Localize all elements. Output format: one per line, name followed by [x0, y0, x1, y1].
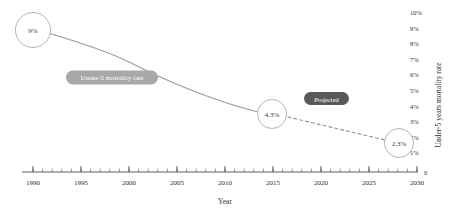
data-point-1990[interactable]: 9%	[16, 13, 51, 48]
data-point-2030[interactable]: 2.3%	[385, 129, 414, 158]
x-tick-label-2015: 2015	[266, 179, 281, 187]
data-point-label: 4.3%	[265, 111, 280, 119]
chart-plot-area: 1990 1995 2000 2005 2010 2015 2020 2025 …	[0, 0, 459, 224]
y-tick-label-9: 9%	[410, 25, 419, 32]
annotation-pill-label: Under-5 mortality rate	[81, 74, 144, 82]
x-tick-label-1990: 1990	[26, 179, 41, 187]
annotation-pill-projected[interactable]: Projected	[304, 92, 349, 105]
x-tick-label-2025: 2025	[362, 179, 377, 187]
x-tick-label-2020: 2020	[314, 179, 329, 187]
y-axis-title: Under-5 years mortality rate	[434, 62, 443, 148]
chart-container: 1990 1995 2000 2005 2010 2015 2020 2025 …	[0, 0, 459, 224]
y-tick-label-7: 7%	[410, 56, 419, 63]
y-tick-label-8: 8%	[410, 40, 419, 47]
x-tick-label-2010: 2010	[218, 179, 233, 187]
y-tick-label-4: 4%	[410, 103, 419, 110]
y-tick-label-5: 5%	[410, 87, 419, 94]
y-axis-zero-label: 0	[424, 169, 427, 176]
y-tick-label-10: 10%	[410, 9, 423, 16]
data-point-label: 2.3%	[392, 140, 407, 148]
x-tick-label-2000: 2000	[122, 179, 137, 187]
annotation-pill-observed[interactable]: Under-5 mortality rate	[66, 71, 158, 85]
x-tick-label-2005: 2005	[170, 179, 185, 187]
annotation-pill-label: Projected	[314, 96, 339, 103]
series-line-projected	[288, 117, 385, 140]
x-tick-label-1995: 1995	[74, 179, 89, 187]
x-tick-label-2030: 2030	[410, 179, 425, 187]
data-point-label: 9%	[28, 27, 38, 35]
y-tick-label-3: 3%	[410, 118, 419, 125]
data-point-2015[interactable]: 4.3%	[258, 100, 287, 129]
x-axis-title: Year	[218, 197, 232, 206]
y-tick-label-6: 6%	[410, 71, 419, 78]
